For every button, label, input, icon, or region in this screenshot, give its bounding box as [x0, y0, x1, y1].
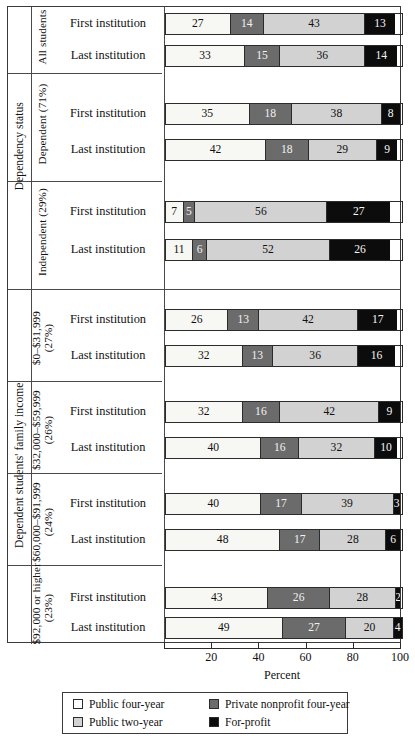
bar-segment-pub2: 32	[298, 438, 374, 458]
x-axis-tick-label: 60	[300, 650, 312, 665]
bar-segment-pub2: 28	[329, 588, 395, 608]
bar-row-label: Last institution	[56, 48, 160, 63]
bar-segment-value: 10	[380, 442, 392, 454]
bar-segment-value: 13	[237, 314, 249, 326]
bar-segment-priv4: 15	[244, 46, 279, 66]
bar-row-label: First institution	[56, 404, 160, 419]
bar-segment-forp: 17	[357, 310, 397, 330]
sub-label-line2: (26%)	[42, 416, 54, 444]
bar-row-label: Last institution	[56, 620, 160, 635]
outer-label-divider	[31, 7, 32, 642]
bar-segment-value: 49	[218, 622, 230, 634]
group-separator	[8, 289, 400, 290]
bar-segment-priv4: 5	[183, 202, 195, 222]
bar-segment-value: 20	[364, 622, 376, 634]
outer-label-family-income: Dependent students' family income	[13, 287, 25, 642]
bar-row-label: Last institution	[56, 142, 160, 157]
bar-row-label: First institution	[56, 312, 160, 327]
chart-group: Dependent (71%)First institution3518388L…	[8, 73, 400, 181]
bar-segment-value: 43	[211, 592, 223, 604]
group-sub-label: $0–$31,999(27%)	[30, 295, 54, 381]
bar-segment-value: 26	[354, 244, 366, 256]
bar-segment-value: 33	[199, 50, 211, 62]
sub-label-line2: (24%)	[42, 508, 54, 536]
legend-swatch-for-profit	[209, 717, 219, 727]
stacked-bar: 4017393	[165, 493, 403, 515]
bar-segment-value: 32	[198, 350, 210, 362]
bar-segment-pub4: 35	[166, 104, 249, 124]
bar-segment-pub2: 52	[206, 240, 329, 260]
legend-swatch-private-nonprofit-four-year	[209, 699, 219, 709]
bar-segment-value: 42	[324, 406, 336, 418]
bar-segment-pub2: 36	[279, 46, 364, 66]
bar-segment-forp: 26	[329, 240, 390, 260]
bar-segment-forp: 8	[381, 104, 400, 124]
bar-segment-value: 7	[171, 206, 177, 218]
bar-segment-value: 26	[293, 592, 305, 604]
bar-segment-value: 3	[394, 498, 400, 510]
bar-segment-forp: 16	[357, 346, 395, 366]
x-axis-title: Percent	[164, 668, 400, 683]
bar-segment-priv4: 6	[192, 240, 206, 260]
group-sub-label: Independent (29%)	[36, 181, 48, 283]
chart-frame: All studentsFirst institution27144313Las…	[7, 6, 401, 643]
bar-segment-value: 42	[210, 144, 222, 156]
x-axis-tick-label: 100	[391, 650, 409, 665]
bar-segment-pub4: 33	[166, 46, 244, 66]
bar-segment-pub4: 48	[166, 530, 279, 550]
sub-label-line1: Independent (29%)	[36, 188, 48, 276]
sub-label-line1: Dependent (71%)	[36, 84, 48, 165]
bar-segment-priv4: 16	[260, 438, 298, 458]
bar-segment-value: 16	[371, 350, 383, 362]
x-axis-tick	[400, 642, 401, 649]
bar-segment-value: 6	[197, 244, 203, 256]
stacked-bar: 3216429	[165, 401, 403, 423]
bar-segment-pub2: 42	[279, 402, 378, 422]
stacked-bar: 4927204	[165, 617, 403, 639]
sub-label-line2: (23%)	[42, 593, 54, 621]
bar-segment-priv4: 18	[265, 140, 307, 160]
bar-segment-forp: 27	[326, 202, 390, 222]
stacked-bar: 33153614	[165, 45, 403, 67]
bar-segment-value: 11	[173, 244, 184, 256]
group-sub-label: $60,000–$91,999(24%)	[30, 479, 54, 565]
bar-segment-pub4: 7	[166, 202, 183, 222]
stacked-bar: 755627	[165, 201, 403, 223]
bar-segment-pub4: 32	[166, 346, 242, 366]
bar-row-label: First institution	[56, 204, 160, 219]
bar-segment-value: 28	[347, 534, 359, 546]
bar-segment-priv4: 17	[279, 530, 319, 550]
bar-segment-value: 14	[241, 18, 253, 30]
bar-segment-value: 42	[302, 314, 314, 326]
bar-row-label: Last institution	[56, 348, 160, 363]
stacked-bar: 32133616	[165, 345, 403, 367]
bar-segment-value: 27	[192, 18, 204, 30]
bar-segment-priv4: 26	[267, 588, 328, 608]
bar-segment-value: 39	[341, 498, 353, 510]
bar-segment-priv4: 14	[230, 14, 263, 34]
bar-segment-forp: 14	[364, 46, 397, 66]
bar-segment-priv4: 27	[282, 618, 346, 638]
bar-segment-value: 18	[265, 108, 277, 120]
bar-segment-forp: 13	[364, 14, 395, 34]
bar-row-label: Last institution	[56, 440, 160, 455]
legend-label-private-nonprofit-four-year: Private nonprofit four-year	[225, 698, 350, 711]
legend-label-public-four-year: Public four-year	[89, 698, 164, 711]
chart-legend: Public four-year Private nonprofit four-…	[62, 692, 348, 734]
stacked-bar: 4218299	[165, 139, 403, 161]
stacked-bar: 4326282	[165, 587, 403, 609]
bar-segment-value: 26	[191, 314, 203, 326]
bar-segment-value: 38	[331, 108, 343, 120]
bar-segment-priv4: 13	[242, 346, 273, 366]
bar-segment-value: 8	[388, 108, 394, 120]
bar-segment-value: 36	[316, 50, 328, 62]
bar-segment-forp: 2	[395, 588, 400, 608]
bar-segment-value: 16	[255, 406, 267, 418]
outer-label-dependency-status: Dependency status	[13, 5, 25, 287]
bar-segment-value: 13	[374, 18, 386, 30]
bar-segment-value: 27	[353, 206, 365, 218]
bar-segment-priv4: 17	[260, 494, 300, 514]
bar-row-label: First institution	[56, 16, 160, 31]
bar-segment-pub4: 26	[166, 310, 227, 330]
bar-segment-value: 14	[375, 50, 387, 62]
